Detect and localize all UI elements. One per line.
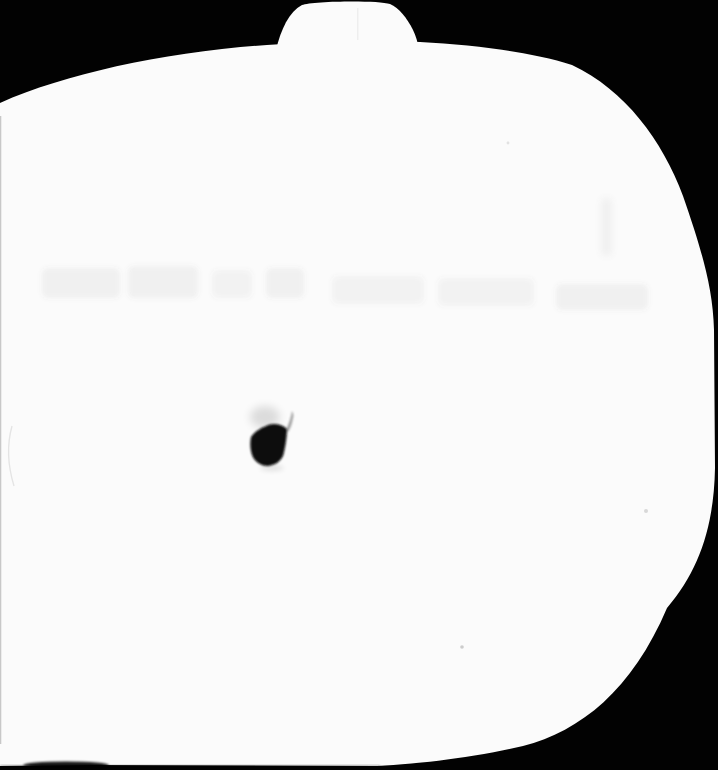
faded-text-blob — [212, 270, 252, 298]
ink-blob-shadow — [260, 465, 284, 471]
bottom-smudge-core — [23, 762, 109, 769]
scan-edge-line — [0, 116, 1, 744]
stem-hairline — [357, 8, 359, 40]
faded-text-blob — [42, 268, 120, 298]
pumpkin-silhouette — [0, 1, 715, 766]
scanned-page — [0, 0, 718, 770]
faded-text-blob — [128, 266, 198, 298]
vertical-smudge — [601, 198, 612, 256]
dust-speck — [507, 142, 510, 145]
faded-text-blob — [332, 276, 424, 304]
faded-text-blob — [556, 284, 648, 310]
dust-speck — [460, 645, 464, 649]
dust-speck — [644, 509, 648, 513]
faded-text-blob — [438, 278, 534, 306]
pumpkin-body — [0, 42, 715, 766]
scan-image — [0, 0, 718, 770]
faded-text-blob — [266, 268, 304, 298]
